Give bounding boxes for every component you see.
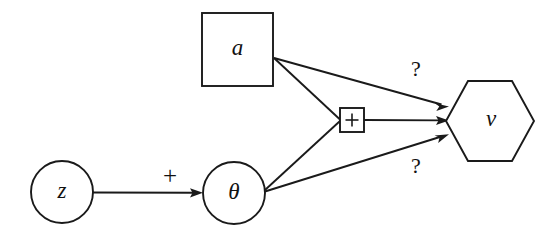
node-v[interactable]: v: [446, 81, 534, 161]
node-a[interactable]: a: [202, 13, 273, 86]
edge-a-to-v: [274, 58, 449, 111]
diagram-canvas: z θ a v + ? ?: [0, 0, 559, 236]
node-theta-label: θ: [228, 179, 239, 204]
edge-label-theta-to-v: ?: [411, 153, 421, 178]
edge-a-to-v-arrowhead: [435, 103, 449, 111]
edge-label-a-to-v: ?: [411, 56, 421, 81]
node-z[interactable]: z: [31, 161, 93, 223]
node-theta[interactable]: θ: [203, 162, 265, 224]
edge-z-to-theta: [93, 188, 203, 197]
node-plus-operator[interactable]: [340, 108, 364, 132]
edge-theta-to-v: [265, 134, 449, 191]
edge-label-z-to-theta: +: [163, 162, 177, 189]
edge-plus-to-v: [364, 116, 449, 125]
node-a-label: a: [232, 35, 244, 60]
graph-svg: z θ a v + ? ?: [0, 0, 559, 236]
node-v-label: v: [486, 106, 497, 131]
node-z-label: z: [57, 178, 67, 203]
